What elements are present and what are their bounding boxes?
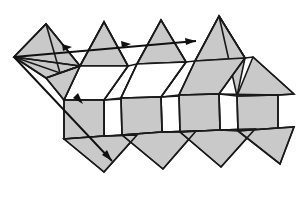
diagram-root: Triangular tiling with lattice translati… <box>0 0 302 198</box>
tile-gray-row2-2 <box>121 97 162 135</box>
tile-gray-row2-1 <box>64 100 104 139</box>
tile-gray-row2-4 <box>237 95 278 131</box>
tiling-diagram <box>0 0 302 198</box>
tile-gray-row2-3 <box>179 94 220 132</box>
